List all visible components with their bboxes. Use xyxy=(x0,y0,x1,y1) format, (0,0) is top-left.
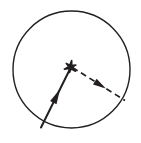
circle-radius-diagram xyxy=(0,0,141,143)
figure-container xyxy=(0,0,141,143)
